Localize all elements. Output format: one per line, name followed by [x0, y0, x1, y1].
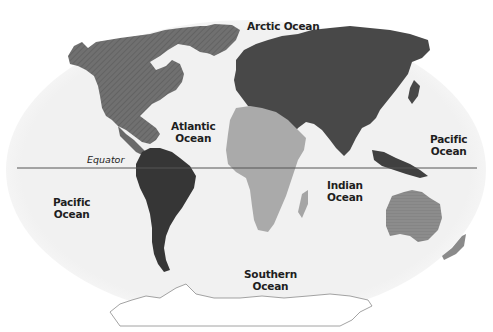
label-southern-line1: Southern	[244, 268, 297, 280]
label-indian-ocean: Indian Ocean	[327, 179, 363, 203]
label-indian-line2: Ocean	[327, 191, 363, 203]
label-pacific-west-line2: Ocean	[53, 208, 90, 220]
label-pacific-ocean-west: Pacific Ocean	[53, 196, 90, 220]
label-atlantic-line2: Ocean	[171, 132, 216, 144]
label-pacific-west-line1: Pacific	[53, 196, 90, 208]
label-equator: Equator	[87, 154, 124, 165]
label-pacific-ocean-east: Pacific Ocean	[430, 133, 467, 157]
label-southern-ocean: Southern Ocean	[244, 268, 297, 292]
label-southern-line2: Ocean	[244, 280, 297, 292]
label-pacific-east-line1: Pacific	[430, 133, 467, 145]
label-pacific-east-line2: Ocean	[430, 145, 467, 157]
label-atlantic-line1: Atlantic	[171, 120, 216, 132]
label-indian-line1: Indian	[327, 179, 363, 191]
label-arctic-ocean: Arctic Ocean	[247, 20, 319, 32]
label-atlantic-ocean: Atlantic Ocean	[171, 120, 216, 144]
